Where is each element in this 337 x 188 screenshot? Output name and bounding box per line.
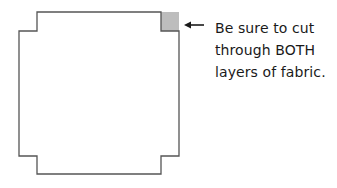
fabric-square-outline xyxy=(19,12,179,174)
note-line-2: through BOTH xyxy=(215,39,335,61)
cut-instruction-note: Be sure to cut through BOTH layers of fa… xyxy=(215,17,335,83)
highlighted-cut-corner xyxy=(161,12,179,31)
left-arrow-icon xyxy=(184,22,204,29)
diagram-canvas: Be sure to cut through BOTH layers of fa… xyxy=(0,0,337,188)
note-line-1: Be sure to cut xyxy=(215,17,335,39)
note-line-3: layers of fabric. xyxy=(215,61,335,83)
